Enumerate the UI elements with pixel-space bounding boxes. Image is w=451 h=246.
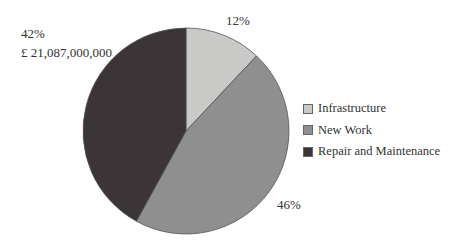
label-repair-value: £ 21,087,000,000 xyxy=(21,45,112,60)
legend-label: Repair and Maintenance xyxy=(318,144,440,159)
legend-label: Infrastructure xyxy=(318,101,386,116)
legend-swatch-infrastructure xyxy=(303,104,313,114)
legend-swatch-new-work xyxy=(303,125,313,135)
legend-item-new-work: New Work xyxy=(303,120,440,142)
legend: Infrastructure New Work Repair and Maint… xyxy=(303,98,440,163)
legend-label: New Work xyxy=(318,123,372,138)
legend-swatch-repair-maintenance xyxy=(303,147,313,157)
legend-item-infrastructure: Infrastructure xyxy=(303,98,440,120)
label-repair-pct: 42% xyxy=(21,26,45,41)
pie-chart: 12% 46% 42% £ 21,087,000,000 Infrastruct… xyxy=(0,0,451,246)
legend-item-repair-maintenance: Repair and Maintenance xyxy=(303,141,440,163)
pie-slices xyxy=(83,28,289,234)
label-new-work-pct: 46% xyxy=(277,197,301,212)
label-infrastructure-pct: 12% xyxy=(226,13,250,28)
